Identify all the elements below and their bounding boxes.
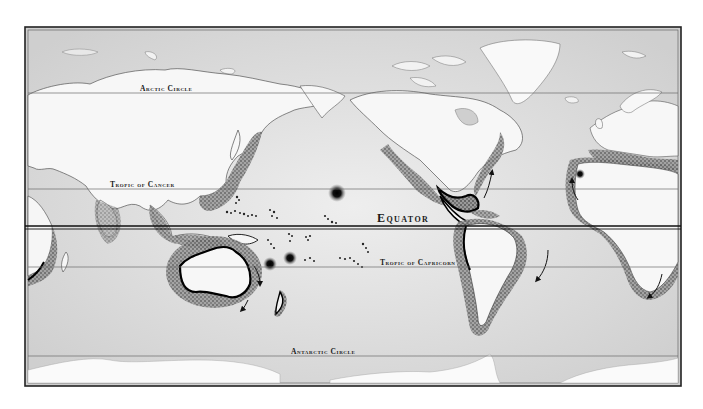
equator-label: Equator — [377, 211, 429, 225]
world-map: Arctic Circle Tropic of Cancer Equator T… — [0, 0, 703, 409]
arctic-circle-label: Arctic Circle — [140, 84, 193, 93]
tropic-of-cancer-label: Tropic of Cancer — [110, 180, 175, 189]
tropic-of-capricorn-label: Tropic of Capricorn — [380, 258, 456, 267]
antarctic-circle-label: Antarctic Circle — [291, 347, 356, 356]
